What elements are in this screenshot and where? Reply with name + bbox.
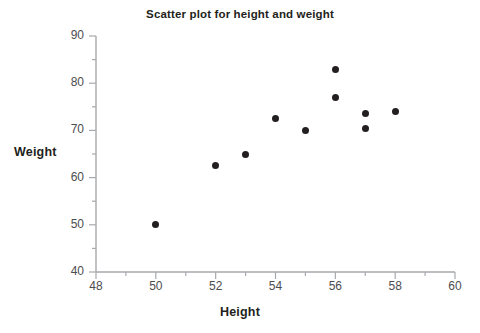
y-tick-label: 40: [46, 264, 84, 278]
data-point: [242, 151, 249, 158]
y-axis-label: Weight: [14, 145, 57, 159]
data-point: [362, 110, 369, 117]
data-point: [212, 162, 219, 169]
y-tick-label: 70: [46, 122, 84, 136]
data-point: [362, 125, 369, 132]
y-tick-label: 90: [46, 28, 84, 42]
x-tick-label: 56: [315, 279, 355, 293]
x-axis-label: Height: [0, 305, 480, 319]
x-axis-ticks: [96, 272, 455, 279]
y-tick-label: 60: [46, 170, 84, 184]
data-point: [332, 94, 339, 101]
x-tick-label: 58: [375, 279, 415, 293]
x-tick-label: 48: [76, 279, 116, 293]
data-point: [302, 127, 309, 134]
data-point: [332, 66, 339, 73]
plot-area: [96, 36, 455, 272]
scatter-plot-figure: Scatter plot for height and weight 48505…: [0, 0, 480, 333]
data-point: [152, 221, 159, 228]
x-tick-label: 60: [435, 279, 475, 293]
y-tick-label: 80: [46, 75, 84, 89]
x-tick-label: 54: [256, 279, 296, 293]
data-point: [392, 108, 399, 115]
y-axis-ticks: [89, 36, 96, 272]
x-tick-label: 50: [136, 279, 176, 293]
x-tick-label: 52: [196, 279, 236, 293]
data-point: [272, 115, 279, 122]
y-tick-label: 50: [46, 217, 84, 231]
